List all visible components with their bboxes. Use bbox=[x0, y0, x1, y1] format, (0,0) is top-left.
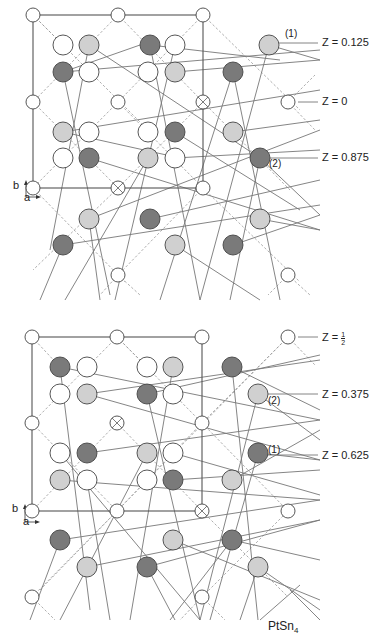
light-atom bbox=[248, 384, 268, 404]
bond-line bbox=[175, 245, 260, 300]
bond-line bbox=[130, 367, 173, 620]
light-atom bbox=[250, 209, 270, 229]
bond-line bbox=[89, 130, 320, 219]
dark-atom bbox=[140, 35, 160, 55]
bond-line bbox=[30, 540, 60, 620]
white-atom bbox=[138, 62, 158, 82]
bond-line bbox=[63, 45, 140, 72]
light-atom bbox=[163, 357, 183, 377]
level-label-z0625: Z = 0.625 bbox=[322, 449, 369, 461]
white-atom bbox=[281, 330, 295, 344]
light-atom bbox=[137, 443, 157, 463]
bond-line bbox=[150, 45, 200, 300]
bond-line bbox=[175, 150, 320, 158]
bond-line bbox=[60, 500, 320, 540]
dark-atom bbox=[250, 148, 270, 168]
level-label-zhalf: Z = 12 bbox=[322, 331, 345, 346]
white-atom bbox=[50, 443, 70, 463]
bond-line bbox=[233, 120, 320, 132]
dark-atom bbox=[223, 62, 243, 82]
fraction-one-half: 12 bbox=[341, 331, 345, 346]
crystal-structure-diagram bbox=[0, 0, 375, 642]
light-atom bbox=[53, 122, 73, 142]
white-atom bbox=[165, 148, 185, 168]
white-atom bbox=[110, 504, 124, 518]
dark-atom bbox=[223, 235, 243, 255]
white-atom bbox=[111, 8, 125, 22]
arrow-head-icon bbox=[35, 520, 40, 524]
bond-line bbox=[63, 205, 320, 245]
white-atom bbox=[26, 95, 40, 109]
white-atom bbox=[196, 181, 210, 195]
white-atom bbox=[137, 470, 157, 490]
bond-line bbox=[87, 360, 320, 394]
dark-atom bbox=[248, 443, 268, 463]
bond-line bbox=[89, 219, 100, 300]
bond-line bbox=[63, 72, 110, 295]
level-label-z0125: Z = 0.125 bbox=[322, 36, 369, 48]
bond-line bbox=[233, 72, 280, 300]
level-label-z0: Z = 0 bbox=[322, 95, 347, 107]
bond-line bbox=[230, 158, 260, 300]
dark-atom bbox=[53, 235, 73, 255]
light-atom bbox=[79, 35, 99, 55]
bond-line bbox=[60, 367, 320, 420]
light-atom bbox=[165, 62, 185, 82]
bond-line bbox=[147, 394, 200, 620]
light-atom bbox=[259, 35, 279, 55]
bond-line bbox=[260, 585, 300, 620]
white-atom bbox=[163, 443, 183, 463]
axis-b-label-top: b bbox=[13, 179, 19, 191]
white-atom bbox=[50, 384, 70, 404]
white-atom bbox=[53, 148, 73, 168]
dark-atom bbox=[137, 384, 157, 404]
white-atom bbox=[77, 357, 97, 377]
bond-line bbox=[173, 540, 320, 600]
top-panel bbox=[24, 8, 320, 300]
site-label-2-bottom: (2) bbox=[268, 395, 280, 406]
bond-line bbox=[87, 480, 110, 620]
bond-line bbox=[258, 567, 320, 610]
dashed-bond-line bbox=[33, 188, 118, 270]
light-atom bbox=[248, 557, 268, 577]
bond-line bbox=[290, 590, 320, 620]
white-atom bbox=[281, 95, 295, 109]
dashed-bond-line bbox=[33, 188, 125, 282]
dark-atom bbox=[140, 209, 160, 229]
light-atom bbox=[138, 148, 158, 168]
site-label-2-top: (2) bbox=[269, 158, 281, 169]
compound-formula: PtSn4 bbox=[268, 619, 298, 635]
white-atom bbox=[163, 384, 183, 404]
bond-line bbox=[175, 60, 320, 72]
dark-atom bbox=[79, 148, 99, 168]
white-atom bbox=[25, 590, 39, 604]
white-atom bbox=[196, 8, 210, 22]
white-atom bbox=[281, 268, 295, 282]
white-atom bbox=[137, 357, 157, 377]
axis-a-label-bottom: a bbox=[23, 515, 29, 527]
bond-line bbox=[115, 45, 175, 300]
white-atom bbox=[111, 95, 125, 109]
light-atom bbox=[165, 235, 185, 255]
dark-atom bbox=[77, 443, 97, 463]
dark-atom bbox=[163, 470, 183, 490]
level-label-z0375: Z = 0.375 bbox=[322, 388, 369, 400]
white-atom bbox=[281, 504, 295, 518]
light-atom bbox=[77, 384, 97, 404]
dark-atom bbox=[137, 557, 157, 577]
white-atom bbox=[25, 416, 39, 430]
dark-atom bbox=[222, 357, 242, 377]
light-atom bbox=[50, 470, 70, 490]
site-label-1-top: (1) bbox=[285, 28, 297, 39]
light-atom bbox=[77, 557, 97, 577]
level-label-z0875: Z = 0.875 bbox=[322, 151, 369, 163]
white-atom bbox=[195, 416, 209, 430]
white-atom bbox=[138, 122, 158, 142]
axis-a-label-top: a bbox=[24, 191, 30, 203]
light-atom bbox=[79, 209, 99, 229]
dark-atom bbox=[53, 62, 73, 82]
light-atom bbox=[163, 530, 183, 550]
white-atom bbox=[111, 268, 125, 282]
dark-atom bbox=[50, 530, 70, 550]
white-atom bbox=[165, 35, 185, 55]
